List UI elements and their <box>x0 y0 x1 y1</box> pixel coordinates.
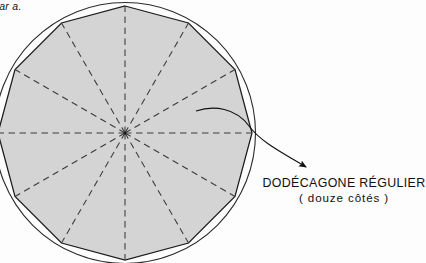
dodecagon-figure <box>0 0 426 263</box>
caption-subtitle: ( douze côtés ) <box>262 191 426 205</box>
caption-title: DODÉCAGONE RÉGULIER <box>262 176 426 190</box>
caption-block: DODÉCAGONE RÉGULIER ( douze côtés ) <box>262 176 426 205</box>
corner-note-text: par a. <box>0 0 22 12</box>
center-point <box>124 132 127 135</box>
diagram-page: par a. DODÉCAGONE RÉGULIER ( douze côtés… <box>0 0 426 263</box>
